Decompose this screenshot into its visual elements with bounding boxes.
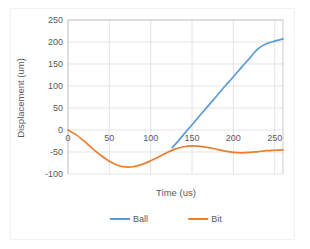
- y-tick-label: 150: [48, 59, 63, 69]
- x-axis-tick-labels: 050100150200250: [65, 133, 282, 143]
- y-tick-label: 50: [53, 103, 63, 113]
- y-tick-label: -100: [45, 169, 63, 179]
- y-tick-label: 100: [48, 81, 63, 91]
- legend-label-ball[interactable]: Ball: [133, 214, 148, 224]
- series-line-bit: [68, 130, 283, 167]
- chart-legend: BallBit: [110, 214, 222, 224]
- axis-lines: [68, 20, 283, 174]
- y-tick-label: -50: [50, 147, 63, 157]
- y-tick-label: 200: [48, 37, 63, 47]
- line-chart: 250200150100500-50-100 050100150200250 D…: [0, 0, 310, 249]
- x-axis-title: Time (us): [156, 187, 196, 198]
- data-series-group: [68, 39, 283, 167]
- y-tick-label: 0: [58, 125, 63, 135]
- legend-label-bit[interactable]: Bit: [211, 214, 222, 224]
- x-tick-label: 250: [267, 133, 282, 143]
- y-axis-tick-labels: 250200150100500-50-100: [45, 15, 63, 179]
- x-tick-label: 100: [143, 133, 158, 143]
- y-axis-title: Displacement (um): [15, 58, 26, 138]
- x-tick-label: 0: [65, 133, 70, 143]
- x-tick-label: 150: [185, 133, 200, 143]
- x-tick-label: 200: [226, 133, 241, 143]
- series-line-ball: [172, 39, 283, 148]
- horizontal-gridlines: [68, 20, 283, 174]
- y-tick-label: 250: [48, 15, 63, 25]
- x-tick-label: 50: [104, 133, 114, 143]
